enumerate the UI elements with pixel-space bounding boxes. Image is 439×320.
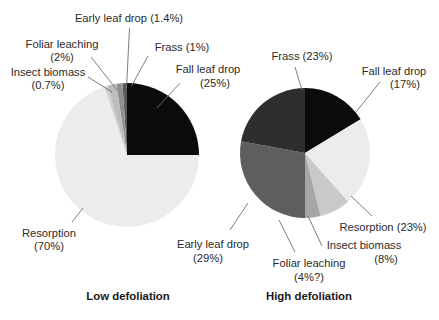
right-label-frass: Frass (23%) [272,50,333,62]
pie-figure: Early leaf drop (1.4%) Foliar leaching (… [0,0,439,320]
left-label-early-leaf-drop: Early leaf drop (1.4%) [75,12,183,24]
left-chart-caption: Low defoliation [86,290,170,302]
left-label-fall-leaf-drop-line2: (25%) [200,77,230,89]
leader-left-resorption [72,208,83,222]
right-label-resorption: Resorption (23%) [339,221,426,233]
leader-right-foliar-leaching [279,220,295,252]
right-label-insect-biomass-line2: (8%) [374,253,398,265]
right-label-insect-biomass-line1: Insect biomass [327,239,402,251]
right-slice-early-leaf-drop[interactable] [240,141,305,218]
right-label-early-leaf-drop-line2: (29%) [193,252,223,264]
right-label-foliar-leaching-line2: (4%?) [294,271,324,283]
left-label-foliar-leaching-line1: Foliar leaching [26,38,99,50]
right-label-fall-leaf-drop-line2: (17%) [390,78,420,90]
leader-left-foliar-leaching [91,57,117,90]
left-label-resorption-line2: (70%) [34,240,64,252]
leader-right-early-leaf-drop [230,203,248,230]
leader-right-frass [295,67,302,90]
right-chart-caption: High defoliation [266,290,352,302]
left-label-frass: Frass (1%) [155,41,210,53]
left-label-insect-biomass-line1: Insect biomass [11,66,86,78]
right-label-early-leaf-drop-line1: Early leaf drop [177,238,249,250]
leader-right-insect-biomass [308,216,322,246]
left-label-resorption-line1: Resorption [22,227,76,239]
left-label-insect-biomass-line2: (0.7%) [32,79,65,91]
left-label-fall-leaf-drop-line1: Fall leaf drop [176,63,241,75]
figure-canvas: Early leaf drop (1.4%) Foliar leaching (… [0,0,439,320]
leader-right-resorption [351,196,372,216]
left-slice-fall-leaf-drop[interactable] [127,83,199,155]
leader-left-frass [132,56,149,86]
right-label-foliar-leaching-line1: Foliar leaching [273,257,346,269]
leader-right-fall-leaf-drop [356,82,380,112]
right-label-fall-leaf-drop-line1: Fall leaf drop [362,65,427,77]
left-label-foliar-leaching-line2: (2%) [50,51,74,63]
leader-left-early-leaf-drop [127,28,130,88]
